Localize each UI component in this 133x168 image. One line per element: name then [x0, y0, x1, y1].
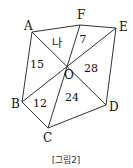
figure-canvas: AFEDCBO나728241215[그림2] — [0, 0, 133, 168]
vertex-label-A: A — [23, 19, 33, 33]
geometry-figure: AFEDCBO나728241215[그림2] — [0, 0, 133, 168]
region-area-DOC: 24 — [65, 91, 79, 104]
figure-caption: [그림2] — [52, 154, 81, 165]
region-area-COB: 12 — [33, 97, 47, 110]
region-area-FOE: 7 — [80, 33, 87, 46]
center-label-O: O — [64, 68, 74, 82]
vertex-label-B: B — [11, 97, 20, 111]
region-area-AOF: 나 — [52, 37, 62, 50]
vertex-label-F: F — [77, 8, 85, 22]
vertex-label-E: E — [119, 20, 128, 34]
region-area-BOA: 15 — [30, 58, 44, 71]
region-area-EOD: 28 — [84, 62, 98, 75]
vertex-label-D: D — [109, 100, 119, 114]
vertex-label-C: C — [43, 131, 52, 145]
